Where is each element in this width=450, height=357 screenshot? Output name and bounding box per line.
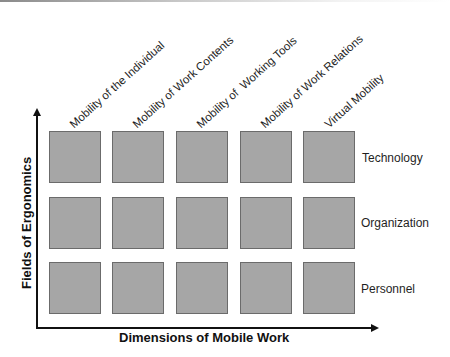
matrix-cell (303, 197, 355, 249)
row-label-organization: Organization (361, 217, 429, 229)
matrix-cell (49, 197, 101, 249)
matrix-cell (49, 262, 101, 314)
top-rule (0, 0, 450, 2)
matrix-cell (240, 262, 292, 314)
matrix-cell (112, 262, 164, 314)
row-label-technology: Technology (362, 152, 423, 164)
matrix-cell (303, 262, 355, 314)
row-label-personnel: Personnel (361, 283, 415, 295)
y-axis-line (36, 114, 38, 329)
x-axis-title: Dimensions of Mobile Work (119, 331, 289, 344)
y-axis-title: Fields of Ergonomics (20, 157, 33, 289)
matrix-cell (49, 131, 101, 183)
x-axis-arrow-icon (371, 324, 379, 332)
matrix-cell (176, 197, 228, 249)
x-axis-line (36, 327, 373, 329)
matrix-cell (240, 131, 292, 183)
matrix-cell (112, 197, 164, 249)
matrix-cell (240, 197, 292, 249)
matrix-cell (112, 131, 164, 183)
matrix-cell (176, 131, 228, 183)
y-axis-arrow-icon (33, 108, 41, 116)
column-label-virtual-mobility: Virtual Mobility (323, 72, 386, 130)
matrix-cell (303, 131, 355, 183)
matrix-cell (176, 262, 228, 314)
